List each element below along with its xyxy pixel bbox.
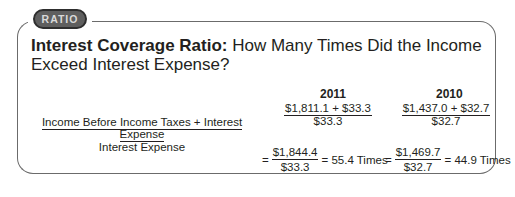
ratio-badge: RATIO	[33, 9, 87, 29]
page-title: Interest Coverage Ratio: How Many Times …	[31, 36, 501, 74]
ratio-formula: Income Before Income Taxes + Interest Ex…	[33, 116, 251, 153]
formula-numerator: Income Before Income Taxes + Interest Ex…	[42, 116, 242, 142]
ratio-badge-label: RATIO	[42, 13, 79, 25]
equals-sign: =	[385, 154, 392, 166]
calc-2011-step1: $1,811.1 + $33.3 $33.3	[270, 102, 386, 127]
calc-2010-result: = 44.9 Times	[444, 154, 510, 166]
title-bold: Interest Coverage Ratio:	[31, 36, 228, 55]
calc-2010-step1: $1,437.0 + $32.7 $32.7	[388, 102, 504, 127]
calc-2011-divisor: $33.3	[281, 160, 310, 173]
calc-2010-divisor: $32.7	[404, 160, 433, 173]
equals-sign: =	[262, 154, 269, 166]
calc-2011-numerator: $1,811.1 + $33.3	[284, 102, 372, 116]
year-2011-header: 2011	[320, 87, 346, 101]
calc-2011-sum: $1,844.4	[272, 146, 319, 160]
calc-2010-sum: $1,469.7	[395, 146, 442, 160]
calc-2011-step2: = $1,844.4 $33.3 = 55.4 Times	[262, 146, 388, 173]
calc-2010-step2: = $1,469.7 $32.7 = 44.9 Times	[385, 146, 511, 173]
formula-denominator: Interest Expense	[33, 140, 251, 153]
year-2010-header: 2010	[436, 87, 463, 101]
calc-2011-result: = 55.4 Times	[321, 154, 387, 166]
calc-2010-numerator: $1,437.0 + $32.7	[402, 102, 491, 116]
